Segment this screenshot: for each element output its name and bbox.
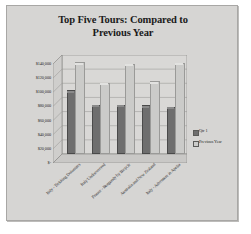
legend-label: Previous Year xyxy=(199,139,222,144)
y-axis-tick-label: $100,000 xyxy=(11,89,51,94)
bar-face xyxy=(75,62,85,154)
x-axis-tick-label: Italy - Trekking Dolomites xyxy=(45,162,81,195)
bar-qtr1[interactable] xyxy=(67,92,75,154)
legend-label: Qtr 1 xyxy=(199,128,207,133)
bar-top xyxy=(167,107,175,109)
bar-qtr1[interactable] xyxy=(92,107,100,154)
bar-face xyxy=(175,63,185,154)
y-axis-tick-label: $140,000 xyxy=(11,61,51,66)
bar-top xyxy=(142,106,150,108)
bar-top xyxy=(125,64,133,66)
bar-top xyxy=(75,63,83,65)
x-axis-tick-label: Italy Undiscovered xyxy=(79,162,106,187)
legend-item[interactable]: Previous Year xyxy=(193,139,239,148)
y-axis-tick-label: $40,000 xyxy=(11,132,51,137)
x-axis-category-labels: Italy - Trekking DolomitesItaly Undiscov… xyxy=(7,162,239,220)
y-axis-tick-label: $20,000 xyxy=(11,146,51,151)
legend-swatch xyxy=(193,141,199,147)
bar-qtr1[interactable] xyxy=(117,107,125,154)
bar-previous-year[interactable] xyxy=(75,64,83,154)
bar-top xyxy=(175,63,183,65)
bar-face xyxy=(150,81,160,154)
legend-item[interactable]: Qtr 1 xyxy=(193,128,239,137)
plot-wrapper: $140,000$120,000$100,000$80,000$60,000$4… xyxy=(7,6,239,222)
bar-top xyxy=(150,82,158,84)
y-axis-tick-label: $60,000 xyxy=(11,118,51,123)
bar-face xyxy=(125,64,135,154)
bar-top xyxy=(92,105,100,107)
chart-container[interactable]: Top Five Tours: Compared to Previous Yea… xyxy=(6,5,238,221)
bar-previous-year[interactable] xyxy=(100,85,108,154)
legend-swatch xyxy=(193,130,199,136)
bar-qtr1[interactable] xyxy=(167,109,175,154)
bar-previous-year[interactable] xyxy=(125,66,133,154)
bar-top xyxy=(100,83,108,85)
bar-series-layer xyxy=(53,55,187,163)
y-axis-tick-label: $120,000 xyxy=(11,75,51,80)
bar-top xyxy=(67,91,75,93)
bar-top xyxy=(117,105,125,107)
bar-face xyxy=(100,83,110,154)
chart-legend[interactable]: Qtr 1Previous Year xyxy=(193,128,239,150)
y-axis-tick-label: $80,000 xyxy=(11,103,51,108)
plot-area xyxy=(53,55,187,163)
bar-previous-year[interactable] xyxy=(150,83,158,154)
bar-qtr1[interactable] xyxy=(142,107,150,154)
bar-previous-year[interactable] xyxy=(175,65,183,154)
